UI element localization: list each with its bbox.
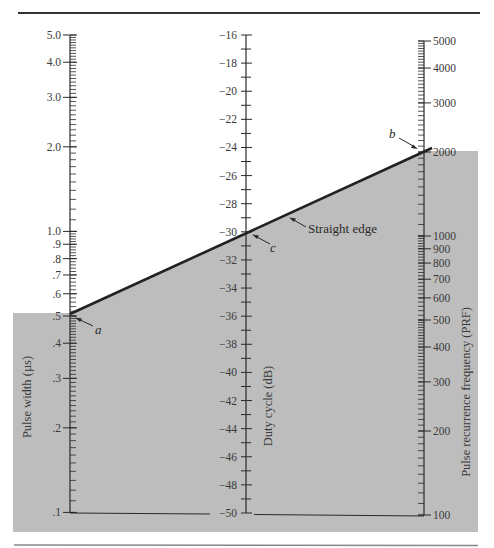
prf-tick-label: 600 (433, 292, 451, 304)
prf-tick-label: 2000 (433, 146, 456, 158)
pulse-width-tick-label: 3.0 (47, 91, 62, 103)
pulse-width-tick-label: .1 (52, 506, 61, 518)
pulse-width-tick-label: .9 (52, 238, 61, 250)
pulse-width-tick-label: 2.0 (47, 141, 62, 153)
prf-tick-label: 200 (433, 425, 451, 437)
duty-cycle-tick-label: −16 (219, 29, 237, 41)
pulse-width-tick-label: .6 (52, 288, 61, 300)
pulse-width-tick-label: 4.0 (47, 56, 62, 68)
duty-cycle-tick-label: −30 (219, 226, 237, 238)
duty-cycle-tick-label: −20 (219, 85, 237, 97)
prf-tick-label: 1000 (433, 230, 456, 242)
duty-cycle-tick-label: −38 (219, 338, 237, 350)
arrow-b-icon (399, 138, 418, 149)
duty-cycle-tick-label: −22 (219, 113, 237, 125)
prf-title: Pulse recurrence frequency (PRF) (459, 307, 473, 477)
bottom-rule (14, 545, 478, 546)
duty-cycle-tick-label: −18 (219, 57, 237, 69)
pulse-width-tick-label: .4 (52, 337, 61, 349)
straight-edge-label: Straight edge (308, 221, 377, 236)
pulse-width-tick-label: 1.0 (47, 225, 62, 237)
prf-tick-label: 700 (433, 273, 451, 285)
duty-cycle-tick-label: −48 (219, 479, 237, 491)
duty-cycle-tick-label: −40 (219, 366, 237, 378)
pulse-width-tick-label: .2 (52, 422, 61, 434)
prf-tick-label: 400 (433, 341, 451, 353)
pulse-width-title: Pulse width (µs) (20, 356, 34, 438)
duty-cycle-tick-label: −32 (219, 254, 237, 266)
prf-tick-label: 3000 (433, 97, 456, 109)
nomogram-figure: 5.04.03.02.01.0.9.8.7.6.5.4.3.2.1 −16−18… (0, 0, 494, 548)
point-a-label: a (95, 322, 102, 337)
duty-cycle-tick-label: −28 (219, 198, 237, 210)
pulse-width-tick-label: .7 (52, 269, 61, 281)
pulse-width-tick-label: 5.0 (47, 29, 62, 41)
prf-tick-label: 300 (433, 376, 451, 388)
prf-tick-label: 800 (433, 257, 451, 269)
point-b-label: b (389, 126, 396, 141)
pulse-width-tick-label: .5 (52, 310, 61, 322)
pulse-width-tick-label: .8 (52, 253, 61, 265)
point-c-label: c (270, 240, 276, 255)
pulse-width-tick-label: .3 (52, 372, 61, 384)
duty-cycle-tick-label: −26 (219, 170, 237, 182)
duty-cycle-tick-label: −24 (219, 141, 237, 153)
duty-cycle-title: Duty cycle (dB) (261, 366, 275, 447)
prf-tick-label: 900 (433, 243, 451, 255)
duty-cycle-tick-label: −46 (219, 451, 237, 463)
duty-cycle-tick-label: −44 (219, 423, 237, 435)
duty-cycle-tick-label: −50 (219, 507, 237, 519)
duty-cycle-tick-label: −42 (219, 395, 237, 407)
prf-tick-label: 500 (433, 314, 451, 326)
prf-tick-label: 4000 (433, 62, 456, 74)
prf-tick-label: 5000 (433, 35, 456, 47)
prf-tick-label: 100 (433, 509, 451, 521)
duty-cycle-tick-label: −34 (219, 282, 237, 294)
duty-cycle-tick-label: −36 (219, 310, 237, 322)
